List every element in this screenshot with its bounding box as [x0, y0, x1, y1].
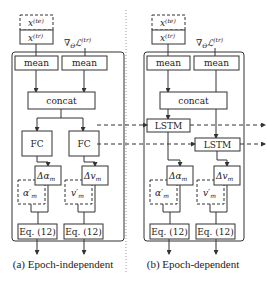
lstm-left-label: LSTM: [155, 121, 182, 131]
diagram-canvas: x(te) x(tr) ∇Θℒ(tr) mean mean concat FC …: [0, 0, 267, 281]
caption-b: (b) Epoch-dependent: [147, 258, 240, 271]
eq-right-label: Eq. (12): [65, 227, 102, 237]
gradient-label: ∇Θℒ(tr): [196, 36, 224, 49]
mean-right-label: mean: [72, 58, 97, 68]
caption-a: (a) Epoch-independent: [13, 258, 113, 271]
fc-left-label: FC: [30, 139, 43, 149]
lstm-right-label: LSTM: [204, 140, 231, 150]
mean-left-label: mean: [156, 58, 181, 68]
eq-left-label: Eq. (12): [151, 227, 188, 237]
mean-left-label: mean: [24, 58, 49, 68]
eq-right-label: Eq. (12): [197, 227, 234, 237]
panel-epoch-independent: x(te) x(tr) ∇Θℒ(tr) mean mean concat FC …: [12, 15, 124, 271]
fc-right-label: FC: [77, 139, 90, 149]
concat-label: concat: [46, 96, 77, 106]
gradient-label: ∇Θℒ(tr): [64, 36, 92, 49]
eq-left-label: Eq. (12): [19, 227, 56, 237]
mean-right-label: mean: [204, 58, 229, 68]
concat-label: concat: [178, 96, 209, 106]
